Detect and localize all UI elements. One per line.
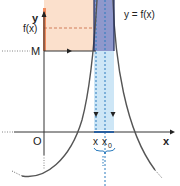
m-label: M xyxy=(31,45,40,57)
limit-diagram: y f(x) M y = f(x) O x x x 0 xyxy=(0,0,180,186)
origin-label: O xyxy=(33,135,42,147)
x-tick-label: x xyxy=(93,136,98,147)
orange-band xyxy=(44,0,96,51)
curve-dotted-end-right xyxy=(155,170,162,178)
x0-tick-label: x xyxy=(102,136,107,147)
x-axis-label: x xyxy=(163,135,170,147)
fx-label: f(x) xyxy=(23,23,37,34)
curve-dotted-end-left xyxy=(12,171,22,176)
function-label: y = f(x) xyxy=(124,9,155,20)
function-curve-right xyxy=(113,0,155,170)
x0-subscript: 0 xyxy=(108,142,112,149)
x-axis-arrow-icon xyxy=(170,130,175,135)
